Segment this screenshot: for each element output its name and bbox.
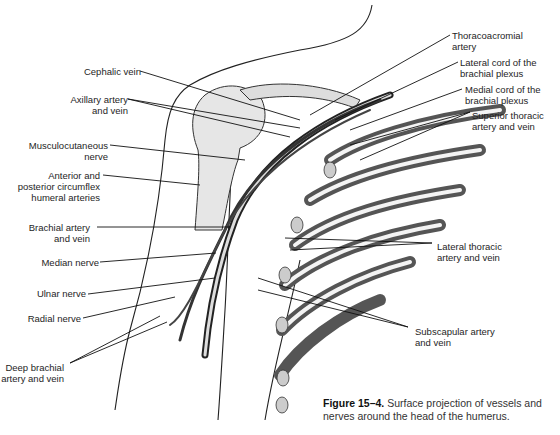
label-deep-brachial-artery-vein: Deep brachialartery and vein <box>1 362 64 384</box>
label-lateral-thoracic-artery-vein: Lateral thoracicartery and vein <box>437 241 502 263</box>
figure-caption: Figure 15–4. Surface projection of vesse… <box>323 397 560 423</box>
label-brachial-artery-vein: Brachial arteryand vein <box>29 222 90 244</box>
label-medial-cord: Medial cord of thebrachial plexus <box>465 84 541 106</box>
label-radial-nerve: Radial nerve <box>28 313 81 324</box>
label-circumflex-humeral-arteries: Anterior andposterior circumflexhumeral … <box>18 170 100 203</box>
label-lateral-cord: Lateral cord of thebrachial plexus <box>460 57 537 79</box>
label-subscapular-artery-vein: Subscapular arteryand vein <box>415 326 495 348</box>
label-superior-thoracic-artery-vein: Superior thoracicartery and vein <box>472 110 544 132</box>
label-thoracoacromial-artery: Thoracoacromialartery <box>452 30 523 52</box>
label-cephalic-vein: Cephalic vein <box>84 66 141 77</box>
figure-number: Figure 15–4. <box>323 397 384 409</box>
label-ulnar-nerve: Ulnar nerve <box>37 288 86 299</box>
label-axillary-artery-vein: Axillary arteryand vein <box>70 94 128 116</box>
label-musculocutaneous-nerve: Musculocutaneousnerve <box>29 140 108 162</box>
label-median-nerve: Median nerve <box>41 257 99 268</box>
